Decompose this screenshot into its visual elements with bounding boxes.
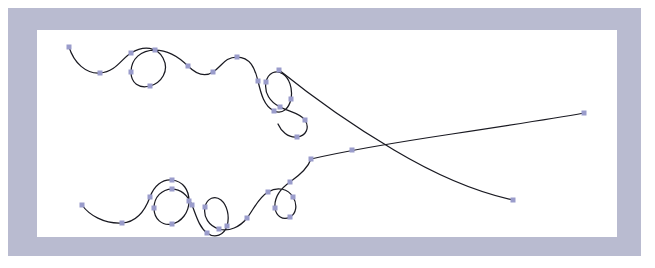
anchor-point-handle[interactable] — [273, 206, 278, 211]
anchor-point-handle[interactable] — [225, 224, 230, 229]
anchor-point-handle[interactable] — [152, 206, 157, 211]
anchor-point-handle[interactable] — [309, 157, 314, 162]
anchor-point-handle[interactable] — [272, 109, 277, 114]
anchor-point-handle[interactable] — [98, 71, 103, 76]
anchor-point-handle[interactable] — [291, 195, 296, 200]
vector-artwork-layer[interactable] — [0, 0, 655, 268]
anchor-point-handle[interactable] — [148, 195, 153, 200]
anchor-point-handle[interactable] — [153, 48, 158, 53]
anchor-point-handle[interactable] — [235, 55, 240, 60]
anchor-point-handle[interactable] — [129, 51, 134, 56]
anchor-point-handle[interactable] — [289, 97, 294, 102]
anchor-point-handle[interactable] — [256, 79, 261, 84]
lower-serpentine-curve[interactable] — [82, 159, 311, 236]
anchor-point-handle[interactable] — [120, 221, 125, 226]
anchor-point-handle[interactable] — [67, 45, 72, 50]
anchor-points-group[interactable] — [67, 45, 587, 236]
anchor-point-handle[interactable] — [303, 118, 308, 123]
anchor-point-handle[interactable] — [186, 64, 191, 69]
descending-diagonal-tail[interactable] — [279, 70, 513, 200]
anchor-point-handle[interactable] — [264, 80, 269, 85]
anchor-point-handle[interactable] — [170, 222, 175, 227]
anchor-point-handle[interactable] — [278, 105, 283, 110]
anchor-point-handle[interactable] — [288, 215, 293, 220]
anchor-point-handle[interactable] — [203, 205, 208, 210]
anchor-point-handle[interactable] — [80, 203, 85, 208]
anchor-point-handle[interactable] — [277, 68, 282, 73]
anchor-point-handle[interactable] — [350, 148, 355, 153]
anchor-point-handle[interactable] — [170, 178, 175, 183]
anchor-point-handle[interactable] — [217, 227, 222, 232]
anchor-point-handle[interactable] — [295, 135, 300, 140]
anchor-point-handle[interactable] — [190, 203, 195, 208]
anchor-point-handle[interactable] — [288, 180, 293, 185]
anchor-point-handle[interactable] — [205, 231, 210, 236]
anchor-point-handle[interactable] — [582, 111, 587, 116]
anchor-point-handle[interactable] — [148, 84, 153, 89]
anchor-point-handle[interactable] — [266, 190, 271, 195]
anchor-point-handle[interactable] — [511, 198, 516, 203]
anchor-point-handle[interactable] — [245, 216, 250, 221]
anchor-point-handle[interactable] — [211, 70, 216, 75]
anchor-point-handle[interactable] — [170, 187, 175, 192]
anchor-point-handle[interactable] — [129, 70, 134, 75]
upper-serpentine-curve[interactable] — [69, 47, 307, 137]
screenshot-root — [0, 0, 655, 268]
bezier-paths-group[interactable] — [69, 47, 584, 236]
